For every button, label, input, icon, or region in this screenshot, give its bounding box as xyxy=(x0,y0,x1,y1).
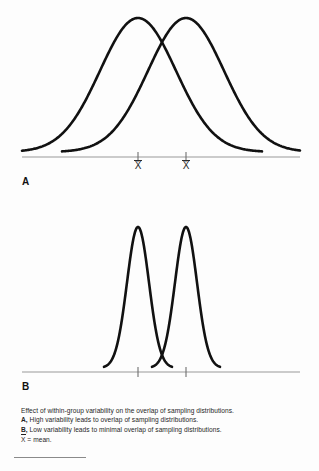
footer-rule xyxy=(14,457,86,458)
mean-symbol: X xyxy=(131,161,145,171)
caption-line-4: X = mean. xyxy=(21,434,306,444)
caption-line-3: B, Low variability leads to minimal over… xyxy=(21,425,306,434)
caption-line-2-text: High variability leads to overlap of sam… xyxy=(30,416,199,423)
panel-a-plot xyxy=(0,0,319,170)
panel-a-curve-2 xyxy=(62,18,300,151)
caption-mean-symbol: X xyxy=(21,434,25,444)
figure-caption: Effect of within-group variability on th… xyxy=(21,406,306,445)
mean-symbol: X xyxy=(179,161,193,171)
panel-b-letter: B xyxy=(22,381,29,392)
mean-symbol: X xyxy=(21,436,25,443)
panel-a-letter: A xyxy=(22,176,29,187)
caption-line-3-text: Low variability leads to minimal overlap… xyxy=(30,426,222,433)
caption-line-2: A, High variability leads to overlap of … xyxy=(21,415,306,424)
caption-line-1: Effect of within-group variability on th… xyxy=(21,406,306,415)
panel-a-mean-label-2: X xyxy=(179,160,193,171)
figure-root: X X A X X B Effect of within-group varia… xyxy=(0,0,319,471)
caption-line-4-text: = mean. xyxy=(27,436,51,443)
panel-b: X X xyxy=(0,212,319,397)
caption-line-3-label: B, xyxy=(21,426,28,433)
caption-line-2-label: A, xyxy=(21,416,28,423)
overbar xyxy=(21,434,26,435)
panel-b-curve-1 xyxy=(104,227,172,367)
panel-a: X X xyxy=(0,0,319,205)
panel-b-plot xyxy=(0,212,319,382)
panel-b-curve-2 xyxy=(152,227,220,367)
panel-a-mean-label-1: X xyxy=(131,160,145,171)
